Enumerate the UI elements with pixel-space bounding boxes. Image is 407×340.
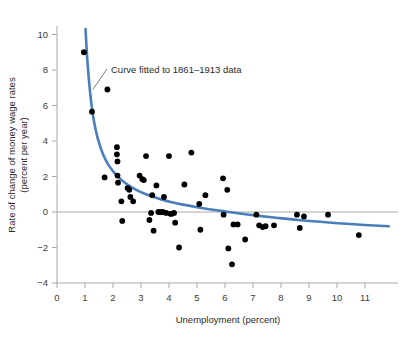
data-point (253, 212, 259, 218)
data-point (102, 174, 108, 180)
x-tick-label: 7 (250, 292, 255, 303)
data-point (263, 223, 269, 229)
y-tick-label: 4 (43, 135, 48, 146)
y-tick-label: 0 (43, 206, 48, 217)
y-axis-ticks: −4−20246810 (37, 29, 57, 289)
data-point (182, 182, 188, 188)
data-point (115, 159, 121, 165)
data-point (171, 210, 177, 216)
x-axis-ticks: 01234567891011 (54, 283, 370, 303)
data-point (271, 222, 277, 228)
data-point (325, 212, 331, 218)
data-point (176, 245, 182, 251)
chart-canvas: −4−20246810 01234567891011 Curve fitted … (0, 0, 407, 340)
x-tick-label: 1 (82, 292, 87, 303)
data-point (161, 194, 167, 200)
data-point (297, 225, 303, 231)
data-point (229, 261, 235, 267)
y-tick-label: 10 (37, 29, 48, 40)
x-tick-label: 6 (222, 292, 227, 303)
data-point (147, 217, 153, 223)
data-point (141, 177, 147, 183)
data-point (235, 222, 241, 228)
x-tick-label: 5 (194, 292, 199, 303)
x-tick-label: 9 (306, 292, 311, 303)
data-point (151, 228, 157, 234)
data-point (242, 237, 248, 243)
y-tick-label: 8 (43, 64, 48, 75)
data-point (143, 153, 149, 159)
x-tick-label: 2 (110, 292, 115, 303)
x-tick-label: 8 (278, 292, 283, 303)
y-axis-title-group: Rate of change of money wage rates (perc… (6, 77, 29, 233)
data-point (301, 214, 307, 220)
data-point (149, 192, 155, 198)
x-tick-label: 11 (360, 292, 370, 303)
data-point (119, 198, 125, 204)
y-axis-title-line1: Rate of change of money wage rates (6, 77, 17, 233)
data-point (114, 151, 120, 157)
data-point (189, 150, 195, 156)
data-point (130, 198, 136, 204)
data-point (114, 144, 120, 150)
data-point (172, 220, 178, 226)
x-axis-title: Unemployment (percent) (176, 314, 281, 325)
x-tick-label: 0 (54, 292, 59, 303)
data-point (119, 218, 125, 224)
x-tick-label: 10 (332, 292, 343, 303)
curve-annotation-label: Curve fitted to 1861–1913 data (111, 64, 242, 75)
data-point (221, 212, 227, 218)
data-point (197, 227, 203, 233)
annotation-leader-line (93, 69, 107, 90)
y-tick-label: −2 (37, 242, 48, 253)
x-tick-label: 3 (138, 292, 143, 303)
data-point (89, 109, 95, 115)
data-point (225, 245, 231, 251)
y-tick-label: 2 (43, 171, 48, 182)
data-point (220, 175, 226, 181)
x-tick-label: 4 (166, 292, 171, 303)
y-axis-title-line2: (percent per year) (18, 117, 29, 193)
data-point (154, 182, 160, 188)
data-point (294, 212, 300, 218)
data-point-group (81, 49, 362, 267)
data-point (115, 173, 121, 179)
phillips-curve-chart: −4−20246810 01234567891011 Curve fitted … (0, 0, 407, 340)
data-point (148, 210, 154, 216)
data-point (356, 232, 362, 238)
data-point (81, 49, 87, 55)
data-point (126, 187, 132, 193)
data-point (166, 153, 172, 159)
y-tick-label: 6 (43, 100, 48, 111)
data-point (203, 192, 209, 198)
data-point (115, 180, 121, 186)
y-tick-label: −4 (37, 277, 48, 288)
data-point (105, 87, 111, 93)
data-point (224, 187, 230, 193)
data-point (196, 201, 202, 207)
